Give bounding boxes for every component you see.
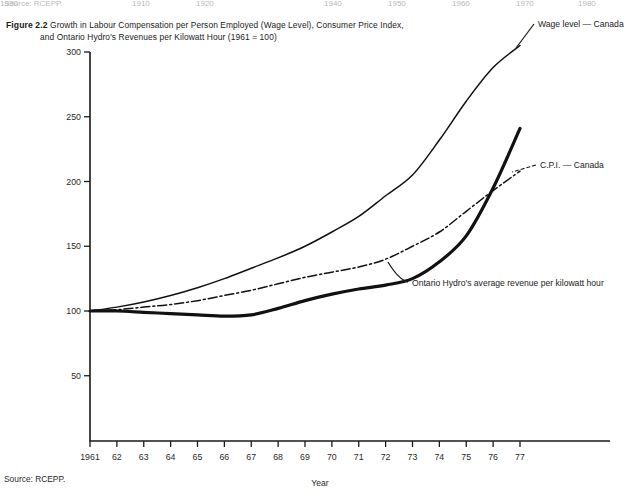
- x-tick-label: 66: [219, 452, 229, 462]
- x-tick-label: 77: [515, 452, 525, 462]
- x-tick-label: 74: [434, 452, 444, 462]
- x-tick-label: 64: [166, 452, 176, 462]
- chart-annotations: Wage level — CanadaC.P.I. — CanadaOntari…: [388, 19, 624, 288]
- leader-line-ontario-hydro: [388, 262, 408, 282]
- x-tick-label: 75: [461, 452, 471, 462]
- chart-axes: [90, 52, 610, 441]
- x-tick-label: 70: [327, 452, 337, 462]
- y-tick-label: 150: [66, 241, 81, 251]
- line-chart: 50100150200250300 1961626364656667686970…: [0, 0, 624, 493]
- x-tick-label: 67: [246, 452, 256, 462]
- x-tick-label: 76: [488, 452, 498, 462]
- leader-line-wage-level: [516, 24, 534, 48]
- y-tick-label: 100: [66, 306, 81, 316]
- x-tick-label: 69: [300, 452, 310, 462]
- chart-series: [90, 46, 520, 317]
- x-tick-label: 63: [139, 452, 149, 462]
- x-tick-label: 62: [112, 452, 122, 462]
- x-tick-label: 68: [273, 452, 283, 462]
- series-line: [90, 46, 520, 311]
- y-axis-tick-labels: 50100150200250300: [66, 47, 81, 381]
- source-note: Source: RCEPP.: [4, 474, 65, 484]
- x-axis-title: Year: [311, 478, 329, 488]
- x-tick-label: 72: [381, 452, 391, 462]
- series-label-wage-level: Wage level — Canada: [538, 19, 624, 29]
- y-tick-label: 250: [66, 112, 81, 122]
- series-label-ontario-hydro: Ontario Hydro's average revenue per kilo…: [412, 278, 604, 288]
- x-axis-tick-labels: 196162636465666768697071727374757677: [80, 452, 525, 462]
- x-tick-label: 71: [354, 452, 364, 462]
- y-tick-label: 50: [71, 371, 81, 381]
- series-label-cpi: C.P.I. — Canada: [540, 160, 604, 170]
- x-tick-label: 65: [193, 452, 203, 462]
- x-tick-label: 73: [408, 452, 418, 462]
- series-line: [90, 128, 520, 316]
- x-tick-label: 1961: [80, 452, 100, 462]
- series-line: [90, 171, 520, 311]
- y-tick-label: 200: [66, 177, 81, 187]
- leader-line-cpi: [512, 165, 536, 172]
- y-tick-label: 300: [66, 47, 81, 57]
